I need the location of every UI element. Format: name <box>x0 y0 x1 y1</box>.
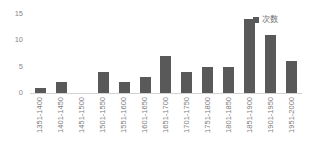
bar[interactable] <box>265 35 276 93</box>
x-axis-label: 1601-1650 <box>141 97 149 133</box>
legend-swatch-icon <box>253 17 259 23</box>
bar-slot <box>30 14 51 93</box>
x-axis-tick-slot: 1701-1750 <box>176 95 197 149</box>
x-axis-label: 1501-1550 <box>99 97 107 133</box>
bar[interactable] <box>56 82 67 93</box>
x-axis-label: 1651-1700 <box>162 97 170 133</box>
legend-label: 次数 <box>262 15 278 24</box>
axis-baseline <box>30 93 302 94</box>
bar[interactable] <box>98 72 109 93</box>
x-axis-label: 1351-1400 <box>36 97 44 133</box>
y-axis-tick: 10 <box>1 36 23 44</box>
x-axis-tick-slot: 1751-1800 <box>197 95 218 149</box>
bar-slot <box>239 14 260 93</box>
x-axis-label: 1551-1600 <box>120 97 128 133</box>
x-axis-label: 1701-1750 <box>183 97 191 133</box>
chart-legend: 次数 <box>253 15 278 24</box>
x-axis-label: 1851-1900 <box>246 97 254 133</box>
x-axis-tick-slot: 1951-2000 <box>281 95 302 149</box>
y-axis-tick: 5 <box>1 63 23 71</box>
bar[interactable] <box>160 56 171 93</box>
x-axis-tick-slot: 1651-1700 <box>156 95 177 149</box>
x-axis-tick-slot: 1451-1500 <box>72 95 93 149</box>
y-axis-tick: 15 <box>1 10 23 18</box>
bar-slot <box>114 14 135 93</box>
x-axis-label: 1801-1850 <box>225 97 233 133</box>
bar-slot <box>197 14 218 93</box>
bar-slot <box>156 14 177 93</box>
x-axis-tick-slot: 1601-1650 <box>135 95 156 149</box>
x-axis-tick-slot: 1401-1450 <box>51 95 72 149</box>
bar[interactable] <box>244 19 255 93</box>
bar[interactable] <box>140 77 151 93</box>
x-axis-label: 1901-1950 <box>267 97 275 133</box>
bar[interactable] <box>181 72 192 93</box>
x-axis-tick-slot: 1351-1400 <box>30 95 51 149</box>
bar-slot <box>135 14 156 93</box>
x-axis-tick-slot: 1501-1550 <box>93 95 114 149</box>
bar[interactable] <box>223 67 234 93</box>
y-axis: 051015 <box>0 0 30 107</box>
bar-slot <box>72 14 93 93</box>
bar-slot <box>93 14 114 93</box>
bar[interactable] <box>286 61 297 93</box>
bar[interactable] <box>202 67 213 93</box>
bar-chart: 051015 1351-14001401-14501451-15001501-1… <box>0 0 309 151</box>
bar-slot <box>260 14 281 93</box>
bar-slot <box>281 14 302 93</box>
x-axis-label: 1951-2000 <box>288 97 296 133</box>
bar[interactable] <box>119 82 130 93</box>
x-axis-tick-slot: 1851-1900 <box>239 95 260 149</box>
plot-area <box>30 14 302 93</box>
x-axis-label: 1401-1450 <box>57 97 65 133</box>
x-axis: 1351-14001401-14501451-15001501-15501551… <box>30 95 302 149</box>
x-axis-tick-slot: 1801-1850 <box>218 95 239 149</box>
bar-series-cishu <box>30 14 302 93</box>
bar-slot <box>51 14 72 93</box>
y-axis-tick: 0 <box>1 89 23 97</box>
x-axis-label: 1451-1500 <box>78 97 86 133</box>
x-axis-label: 1751-1800 <box>204 97 212 133</box>
x-axis-tick-slot: 1551-1600 <box>114 95 135 149</box>
bar-slot <box>176 14 197 93</box>
bar-slot <box>218 14 239 93</box>
x-axis-tick-slot: 1901-1950 <box>260 95 281 149</box>
